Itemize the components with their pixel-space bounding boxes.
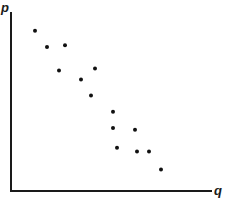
data-point (111, 126, 115, 130)
data-point (159, 167, 163, 171)
data-point (79, 77, 83, 81)
x-axis-label: q (214, 183, 222, 198)
data-points (33, 29, 163, 172)
data-point (147, 149, 151, 153)
data-point (133, 128, 137, 132)
data-point (45, 45, 49, 49)
data-point (63, 43, 67, 47)
y-axis-label: p (0, 0, 9, 15)
scatter-chart: p q (0, 0, 227, 205)
data-point (93, 67, 97, 71)
data-point (115, 146, 119, 150)
data-point (33, 29, 37, 33)
data-point (111, 110, 115, 114)
data-point (135, 149, 139, 153)
data-point (57, 68, 61, 72)
data-point (89, 94, 93, 98)
